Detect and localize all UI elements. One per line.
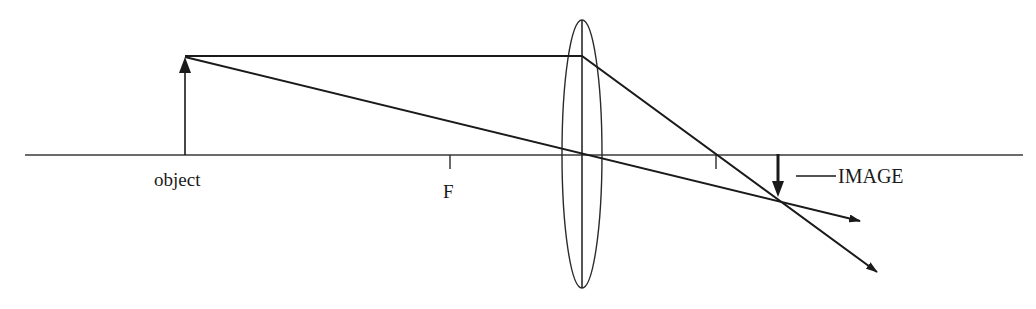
- image-label: IMAGE: [838, 165, 904, 187]
- central-ray: [185, 57, 860, 221]
- ray-diagram: object F IMAGE: [0, 0, 1036, 309]
- object-label: object: [154, 169, 201, 190]
- focal-point-label: F: [443, 181, 454, 202]
- object-arrowhead-icon: [179, 57, 191, 73]
- parallel-ray: [185, 56, 877, 272]
- image-arrowhead-icon: [772, 181, 784, 197]
